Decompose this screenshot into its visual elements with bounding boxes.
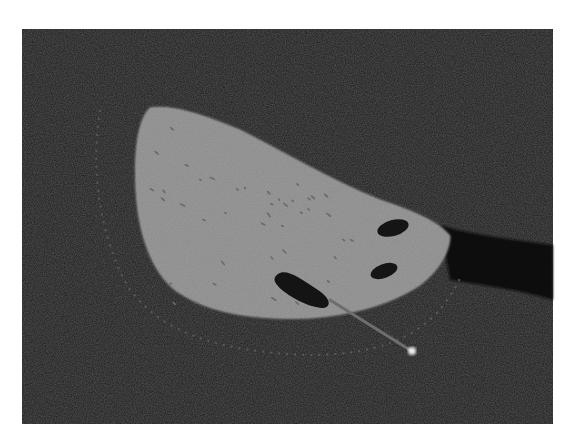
scan-canvas	[0, 0, 573, 441]
scan-image	[0, 0, 573, 441]
bright-dot	[408, 347, 416, 355]
